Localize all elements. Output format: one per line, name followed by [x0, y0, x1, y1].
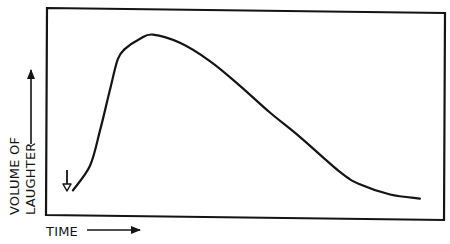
laughter-curve	[73, 34, 420, 198]
x-axis-label: TIME	[45, 224, 140, 239]
y-axis-label: VOLUME OF LAUGHTER	[7, 70, 38, 215]
x-axis-label-text: TIME	[45, 224, 78, 239]
chart: VOLUME OF LAUGHTER TIME	[0, 0, 450, 244]
onset-down-arrow-icon	[63, 170, 71, 191]
y-axis-label-line2: LAUGHTER	[23, 142, 38, 215]
plot-frame	[46, 8, 445, 220]
y-axis-label-line1: VOLUME OF	[7, 137, 22, 215]
